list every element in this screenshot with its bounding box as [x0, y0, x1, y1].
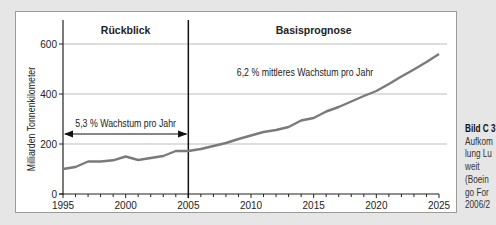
x-tick-label: 1995 [52, 200, 75, 211]
section-label-rueckblick: Rückblick [101, 24, 151, 36]
x-tick-label: 2020 [365, 200, 388, 211]
annotation-forecast-growth: 6,2 % mittleres Wachstum pro Jahr [237, 66, 373, 78]
figure-caption: Bild C 3 Aufkom lung Lu weit (Boein go F… [465, 123, 496, 212]
x-tick-label: 2000 [115, 200, 138, 211]
caption-line: go For [465, 187, 496, 200]
y-tick-label: 400 [40, 89, 57, 100]
section-label-basisprognose: Basisprognose [276, 24, 352, 36]
y-tick-labels: 0200400600 [40, 39, 63, 200]
x-tick-label: 2025 [428, 200, 451, 211]
x-tick-labels: 1995200020052010201520202025 [52, 194, 451, 211]
caption-line: Aufkom [465, 136, 496, 149]
x-tick-label: 2010 [240, 200, 263, 211]
caption-line: 2006/2 [465, 199, 496, 212]
y-tick-label: 0 [51, 189, 57, 200]
y-tick-label: 200 [40, 139, 57, 150]
caption-line: weit [465, 161, 496, 174]
y-tick-label: 600 [40, 39, 57, 50]
x-tick-label: 2005 [177, 200, 200, 211]
x-tick-label: 2015 [303, 200, 326, 211]
caption-title: Bild C 3 [465, 123, 496, 136]
annotation-historic-growth: 5,3 % Wachstum pro Jahr [75, 117, 176, 129]
caption-line: lung Lu [465, 148, 496, 161]
y-axis-label: Milliarden Tonnenkilometer [25, 67, 37, 171]
caption-line: (Boein [465, 174, 496, 187]
